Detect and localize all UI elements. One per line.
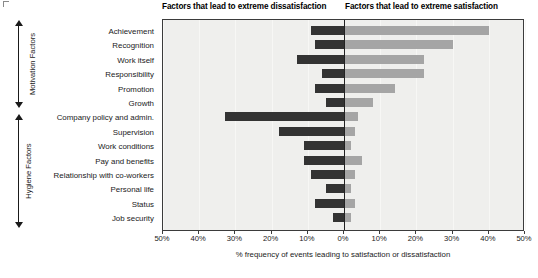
double-arrow-icon bbox=[14, 20, 23, 108]
bar-dissatisfaction bbox=[315, 199, 344, 208]
plot-area bbox=[162, 19, 524, 231]
category-label: Responsibility bbox=[105, 68, 154, 82]
gridline bbox=[272, 20, 273, 230]
bar-satisfaction bbox=[344, 98, 373, 107]
category-label: Growth bbox=[129, 97, 154, 111]
bar-dissatisfaction bbox=[304, 141, 344, 150]
bar-dissatisfaction bbox=[311, 26, 344, 35]
bar-dissatisfaction bbox=[315, 40, 344, 49]
bar-dissatisfaction bbox=[279, 127, 344, 136]
x-tick-label: 40% bbox=[480, 234, 495, 243]
header-dissatisfaction: Factors that lead to extreme dissatisfac… bbox=[162, 2, 326, 11]
bar-dissatisfaction bbox=[326, 98, 344, 107]
category-label: Job security bbox=[112, 212, 154, 226]
x-tick-label: 0% bbox=[338, 234, 349, 243]
category-label: Relationship with co-workers bbox=[54, 169, 154, 183]
category-label: Personal life bbox=[111, 183, 154, 197]
x-tick-label: 40% bbox=[191, 234, 206, 243]
bar-dissatisfaction bbox=[326, 184, 344, 193]
gridline bbox=[525, 20, 526, 230]
bar-satisfaction bbox=[344, 170, 355, 179]
x-tick-label: 10% bbox=[372, 234, 387, 243]
gridline bbox=[380, 20, 381, 230]
group-brackets: Motivation Factors Hygiene Factors bbox=[0, 18, 30, 230]
category-label: Recognition bbox=[112, 39, 154, 53]
bar-dissatisfaction bbox=[315, 84, 344, 93]
x-axis: 50%40%30%20%10%0%10%20%30%40%50% bbox=[162, 231, 524, 249]
x-tick-label: 20% bbox=[408, 234, 423, 243]
category-label: Promotion bbox=[118, 83, 154, 97]
x-tick-label: 30% bbox=[444, 234, 459, 243]
category-label: Supervision bbox=[113, 126, 154, 140]
bar-satisfaction bbox=[344, 55, 424, 64]
bar-dissatisfaction bbox=[297, 55, 344, 64]
bar-satisfaction bbox=[344, 127, 355, 136]
gridline bbox=[453, 20, 454, 230]
bar-dissatisfaction bbox=[225, 112, 344, 121]
bar-satisfaction bbox=[344, 69, 424, 78]
bar-dissatisfaction bbox=[333, 213, 344, 222]
gridline bbox=[489, 20, 490, 230]
bar-satisfaction bbox=[344, 156, 362, 165]
category-labels: AchievementRecognitionWork itselfRespons… bbox=[30, 20, 158, 228]
x-axis-label: % frequency of events leading to satisfa… bbox=[162, 250, 524, 259]
bar-satisfaction bbox=[344, 40, 453, 49]
category-label: Status bbox=[132, 198, 154, 212]
gridline bbox=[235, 20, 236, 230]
x-tick-label: 20% bbox=[263, 234, 278, 243]
x-tick-label: 50% bbox=[516, 234, 531, 243]
category-label: Achievement bbox=[108, 25, 154, 39]
bar-dissatisfaction bbox=[304, 156, 344, 165]
category-label: Company policy and admin. bbox=[57, 111, 154, 125]
x-tick-label: 10% bbox=[299, 234, 314, 243]
x-tick-label: 30% bbox=[227, 234, 242, 243]
gridline bbox=[308, 20, 309, 230]
group-hygiene-factors: Hygiene Factors bbox=[0, 114, 30, 228]
group-motivation-factors: Motivation Factors bbox=[0, 20, 30, 108]
bar-satisfaction bbox=[344, 112, 358, 121]
bar-dissatisfaction bbox=[311, 170, 344, 179]
bar-dissatisfaction bbox=[322, 69, 344, 78]
bar-satisfaction bbox=[344, 84, 395, 93]
header-satisfaction: Factors that lead to extreme satisfactio… bbox=[345, 2, 498, 11]
zero-axis-line bbox=[344, 20, 345, 230]
category-label: Pay and benefits bbox=[95, 155, 154, 169]
gridline bbox=[199, 20, 200, 230]
bar-satisfaction bbox=[344, 26, 489, 35]
gridline bbox=[163, 20, 164, 230]
gridline bbox=[416, 20, 417, 230]
category-label: Work conditions bbox=[98, 140, 154, 154]
double-arrow-icon bbox=[14, 114, 23, 228]
category-label: Work itself bbox=[117, 54, 154, 68]
x-tick-label: 50% bbox=[154, 234, 169, 243]
chart-headers: Factors that lead to extreme dissatisfac… bbox=[0, 0, 538, 18]
bar-satisfaction bbox=[344, 199, 355, 208]
